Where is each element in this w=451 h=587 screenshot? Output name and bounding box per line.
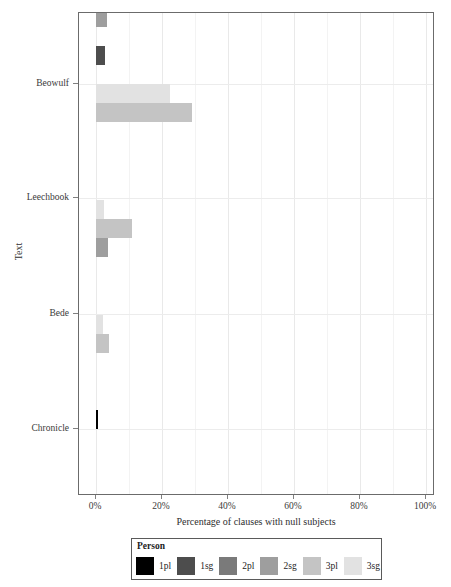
bar-beowulf-2sg [96,12,107,27]
y-tick-label-chronicle: Chronicle [0,423,69,433]
legend-item-3pl[interactable]: 3pl [303,557,340,575]
bar-bede-3sg [96,200,104,219]
legend-swatch-icon [177,557,195,575]
x-tick-mark [227,495,228,499]
legend-swatch-icon [136,557,154,575]
y-gridline [79,314,433,315]
legend-swatch-icon [303,557,321,575]
x-tick-label: 60% [284,501,301,511]
legend-item-2sg[interactable]: 2sg [260,557,298,575]
legend-item-1sg[interactable]: 1sg [177,557,215,575]
y-axis-title: Text [13,222,24,282]
x-gridline-minor [261,13,262,494]
bar-chronicle-3pl [96,334,109,353]
legend-label: 1sg [200,561,213,571]
x-gridline-minor [393,13,394,494]
y-tick-label-leechbook: Leechbook [0,192,69,202]
legend-swatch-icon [344,557,362,575]
x-tick-mark [293,495,294,499]
x-tick-label: 0% [89,501,102,511]
x-tick-mark [359,495,360,499]
legend-title: Person [137,541,165,551]
x-gridline [426,13,427,494]
bar-bede-2sg [96,238,108,257]
legend-label: 1pl [159,561,171,571]
legend-item-1pl[interactable]: 1pl [136,557,173,575]
y-gridline [79,198,433,199]
y-tick-mark [73,83,78,84]
x-gridline [360,13,361,494]
bar-beowulf-1sg [96,46,105,65]
x-tick-mark [425,495,426,499]
y-gridline [79,429,433,430]
y-tick-label-beowulf: Beowulf [0,78,69,88]
x-tick-mark [161,495,162,499]
bar-chronicle-1pl [96,410,98,429]
legend-swatch-icon [219,557,237,575]
legend-swatch-icon [260,557,278,575]
x-tick-label: 80% [350,501,367,511]
legend-item-3sg[interactable]: 3sg [344,557,382,575]
x-tick-label: 100% [414,501,436,511]
legend-item-2pl[interactable]: 2pl [219,557,256,575]
legend-items: 1pl1sg2pl2sg3pl3sg [136,555,378,577]
bar-leechbook-3pl [96,103,192,122]
legend-label: 2pl [242,561,254,571]
legend: Person 1pl1sg2pl2sg3pl3sg [131,538,382,580]
x-gridline-minor [327,13,328,494]
y-tick-mark [73,428,78,429]
bar-chronicle-3sg [96,315,103,334]
legend-label: 3pl [326,561,338,571]
x-tick-mark [95,495,96,499]
legend-label: 3sg [367,561,380,571]
x-gridline [294,13,295,494]
y-tick-mark [73,197,78,198]
x-gridline-minor [195,13,196,494]
x-tick-label: 20% [152,501,169,511]
legend-label: 2sg [283,561,296,571]
bar-chart: Percentage of clauses with null subjects… [0,0,451,587]
bar-leechbook-3sg [96,84,170,103]
y-tick-mark [73,313,78,314]
y-tick-label-bede: Bede [0,308,69,318]
bar-bede-3pl [96,219,132,238]
x-axis-title: Percentage of clauses with null subjects [78,516,434,527]
x-tick-label: 40% [218,501,235,511]
x-gridline [228,13,229,494]
plot-panel [78,12,434,495]
